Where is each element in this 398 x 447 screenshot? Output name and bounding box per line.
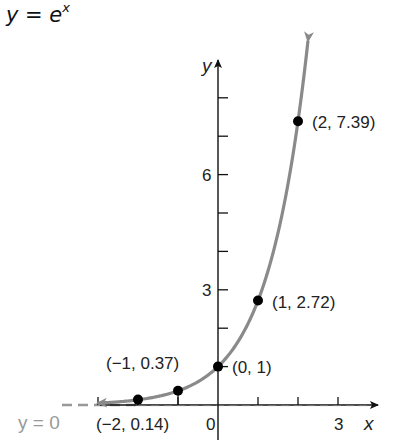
data-point [213, 362, 223, 372]
chart-svg: 0336xyy = 0(−2, 0.14)(−1, 0.37)(0, 1)(1,… [0, 0, 398, 447]
point-label: (0, 1) [232, 358, 272, 377]
y-tick-label: 3 [202, 281, 211, 300]
data-point [293, 116, 303, 126]
asymptote-label: y = 0 [18, 412, 60, 433]
x-tick-label: 3 [334, 415, 343, 434]
x-axis-label: x [363, 413, 375, 434]
curve-exp [98, 41, 308, 403]
y-axis-label: y [200, 55, 213, 76]
point-label: (−1, 0.37) [106, 354, 179, 373]
point-label: (1, 2.72) [272, 293, 335, 312]
point-label: (−2, 0.14) [96, 415, 169, 434]
data-point [133, 395, 143, 405]
data-point [173, 386, 183, 396]
y-tick-label: 6 [202, 166, 211, 185]
x-tick-label: 0 [206, 415, 215, 434]
data-point [253, 296, 263, 306]
point-label: (2, 7.39) [312, 113, 375, 132]
